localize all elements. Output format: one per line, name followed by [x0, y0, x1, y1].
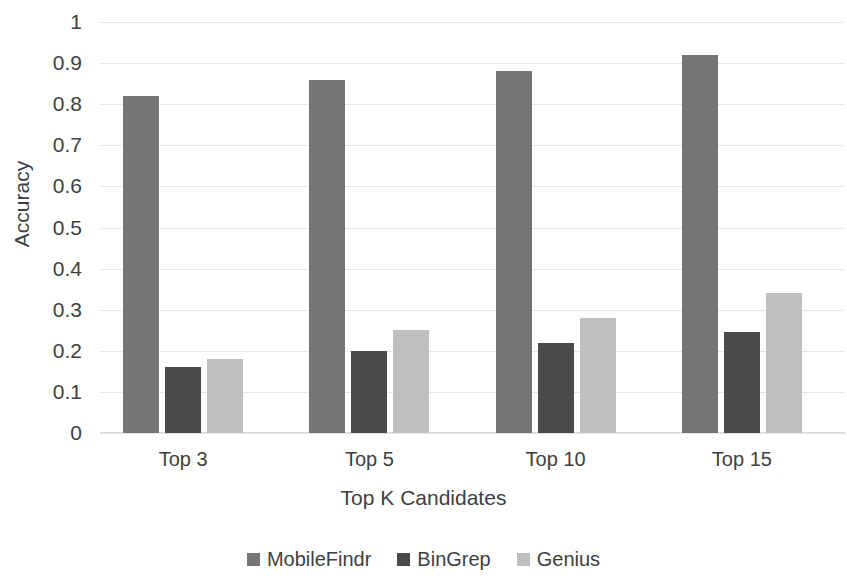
bar[interactable]: [496, 71, 532, 433]
bar[interactable]: [724, 332, 760, 433]
x-axis-tick-label: Top 15: [712, 448, 772, 471]
y-axis-tick-label: 0.7: [53, 133, 82, 157]
bar-groups: [100, 22, 845, 433]
bar[interactable]: [538, 343, 574, 433]
legend-swatch-icon: [247, 553, 260, 566]
x-axis-tick-label: Top 5: [345, 448, 394, 471]
plot-area: [100, 22, 845, 433]
y-axis-tick-label: 0.8: [53, 92, 82, 116]
bar-group: [100, 22, 286, 433]
legend-label: BinGrep: [417, 548, 490, 571]
y-axis-tick-label: 0: [70, 421, 82, 445]
legend-item[interactable]: BinGrep: [397, 548, 490, 571]
bar[interactable]: [165, 367, 201, 433]
bar-group: [473, 22, 659, 433]
legend-swatch-icon: [397, 553, 410, 566]
x-axis-tick-label: Top 10: [526, 448, 586, 471]
bar-chart: Accuracy 00.10.20.30.40.50.60.70.80.91 T…: [0, 0, 847, 579]
bar[interactable]: [309, 80, 345, 433]
legend-swatch-icon: [517, 553, 530, 566]
bar-group: [659, 22, 845, 433]
y-axis-tick-label: 0.3: [53, 298, 82, 322]
bar-group: [286, 22, 472, 433]
bar[interactable]: [207, 359, 243, 433]
x-axis-title: Top K Candidates: [0, 486, 847, 510]
legend-label: MobileFindr: [267, 548, 371, 571]
y-axis-tick-label: 1: [70, 10, 82, 34]
bar[interactable]: [682, 55, 718, 433]
legend-label: Genius: [537, 548, 600, 571]
bar[interactable]: [393, 330, 429, 433]
gridline: [100, 433, 845, 434]
y-axis-tick-label: 0.4: [53, 257, 82, 281]
chart-legend: MobileFindrBinGrepGenius: [0, 548, 847, 571]
bar[interactable]: [580, 318, 616, 433]
bar[interactable]: [351, 351, 387, 433]
y-axis-tick-label: 0.5: [53, 216, 82, 240]
y-axis-tick-label: 0.9: [53, 51, 82, 75]
legend-item[interactable]: Genius: [517, 548, 600, 571]
x-axis-tick-label: Top 3: [159, 448, 208, 471]
x-axis-tick-labels: Top 3Top 5Top 10Top 15: [100, 448, 845, 478]
bar[interactable]: [766, 293, 802, 433]
y-axis-tick-label: 0.2: [53, 339, 82, 363]
y-axis-tick-label: 0.6: [53, 174, 82, 198]
y-axis-tick-label: 0.1: [53, 380, 82, 404]
bar[interactable]: [123, 96, 159, 433]
legend-item[interactable]: MobileFindr: [247, 548, 371, 571]
